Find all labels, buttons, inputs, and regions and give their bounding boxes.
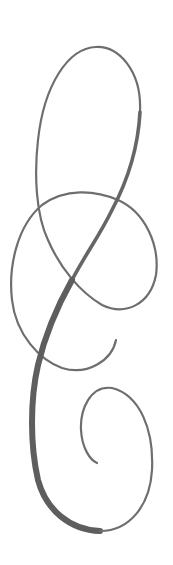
- bottom-spiral-stroke: [81, 388, 152, 531]
- flourish-ornament: Decorative calligraphic swirl flourish: [0, 0, 173, 565]
- top-loop-stroke: [11, 47, 156, 370]
- swirl-flourish-icon: [0, 0, 173, 565]
- main-thick-stroke: [32, 280, 100, 531]
